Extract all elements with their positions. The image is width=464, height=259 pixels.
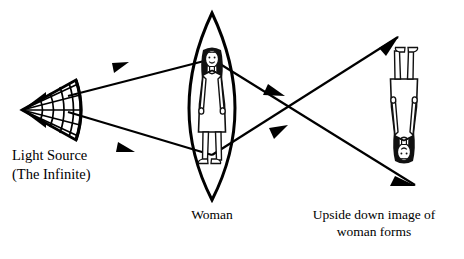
ray-upper-refracted <box>212 59 415 185</box>
image-hand-right <box>391 97 396 103</box>
image-eye-left <box>406 153 408 155</box>
woman-eye-left <box>208 57 210 59</box>
label-light-source: Light Source (The Infinite) <box>12 146 91 183</box>
arrowhead-upper-refracted-mid <box>263 84 285 96</box>
diagram-canvas: Light Source (The Infinite) Woman Upside… <box>0 0 464 259</box>
woman-foot-right <box>211 159 221 164</box>
woman-leg-right <box>216 132 222 160</box>
image-foot-left <box>408 48 418 53</box>
label-inverted-image: Upside down image of woman forms <box>288 206 460 241</box>
label-woman-text: Woman <box>160 206 264 223</box>
arrowhead-lower-refracted-mid <box>269 125 288 139</box>
label-inverted-image-line1: Upside down image of <box>288 206 460 223</box>
label-light-source-line1: Light Source <box>12 146 91 165</box>
label-woman: Woman <box>160 206 264 223</box>
label-inverted-image-line2: woman forms <box>288 223 460 240</box>
standing-woman-figure <box>198 48 225 164</box>
image-leg-left <box>408 51 414 79</box>
woman-foot-left <box>198 159 208 164</box>
image-foot-right <box>395 48 405 53</box>
label-light-source-line2: (The Infinite) <box>12 165 91 184</box>
woman-hand-left <box>199 108 204 114</box>
light-source-icon <box>22 80 81 140</box>
woman-eye-right <box>214 57 216 59</box>
ray-lines <box>68 37 415 185</box>
woman-leg-left <box>203 132 209 160</box>
image-leg-right <box>395 51 401 79</box>
arrowhead-lower-incoming <box>116 142 135 152</box>
arrowhead-upper-incoming <box>112 62 129 73</box>
image-hand-left <box>412 97 417 103</box>
image-eye-right <box>400 153 402 155</box>
ray-arrowheads <box>112 36 416 186</box>
ray-lower-refracted <box>212 37 398 155</box>
woman-hand-right <box>220 108 225 114</box>
inverted-woman-figure <box>391 48 418 164</box>
